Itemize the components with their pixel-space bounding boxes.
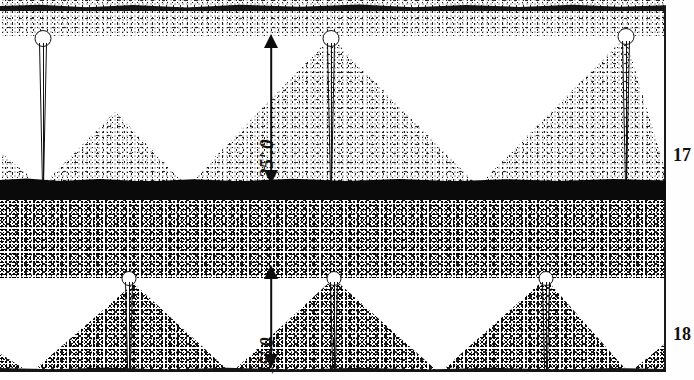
pile-shaft	[130, 282, 134, 370]
pile-lower-2	[322, 271, 346, 370]
pile-shaft	[331, 43, 335, 182]
pile-shaft	[546, 282, 547, 370]
dense-hardpan-layer	[0, 181, 666, 201]
dimension-upper-label: 25'.0	[256, 139, 278, 178]
pile-lower-1	[117, 271, 141, 370]
drawing-canvas: 25'.0 15'.0 17 18	[0, 0, 694, 380]
figure-label-18: 18	[673, 324, 691, 345]
pile-shaft	[334, 282, 335, 370]
figure-17-right-border	[664, 8, 666, 183]
dimension-upper-25ft: 25'.0	[256, 34, 286, 184]
pile-lower-3	[534, 271, 558, 370]
figure-18-cross-section	[0, 200, 666, 370]
pile-shaft	[43, 43, 47, 182]
pile-upper-3	[613, 28, 639, 182]
pile-upper-2	[318, 30, 344, 182]
figure-17-cross-section	[0, 0, 666, 183]
pile-shaft	[626, 41, 630, 182]
figure-label-17: 17	[673, 145, 691, 166]
pile-upper-1	[30, 30, 56, 182]
pile-shaft	[129, 282, 130, 370]
pile-shaft	[331, 43, 332, 182]
figure-18-right-border	[664, 200, 666, 370]
pile-shaft	[335, 282, 339, 370]
pile-shaft	[547, 282, 551, 370]
pile-shaft	[626, 41, 627, 182]
dimension-lower-label: 15'.0	[257, 337, 278, 374]
dimension-lower-15ft: 15'.0	[256, 265, 286, 368]
pile-shaft	[43, 43, 44, 182]
